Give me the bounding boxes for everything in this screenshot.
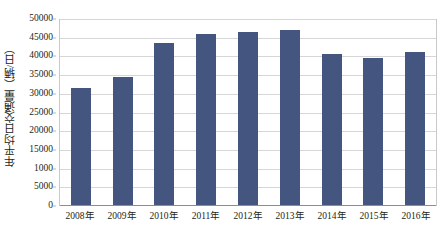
bar: [154, 43, 174, 205]
bar-slot: [394, 19, 436, 205]
y-tick-mark: [53, 56, 56, 57]
y-tick-mark: [53, 112, 56, 113]
bar-slot: [102, 19, 144, 205]
x-tick-label: 2012年: [227, 207, 269, 227]
y-axis-title: 年平均日交通量（辆/日）: [0, 0, 20, 210]
y-tick-label: 30000: [29, 89, 53, 99]
y-tick-label: 45000: [29, 33, 53, 43]
bar-slot: [311, 19, 353, 205]
bar-slot: [352, 19, 394, 205]
y-tick-mark: [53, 206, 56, 207]
bar-slot: [60, 19, 102, 205]
bar-slot: [185, 19, 227, 205]
bar: [405, 52, 425, 205]
y-tick-label: 50000: [29, 14, 53, 24]
x-tick-label: 2010年: [143, 207, 185, 227]
y-tick-mark: [53, 187, 56, 188]
y-axis-tick-labels: 0500010001500020000250003000035000400004…: [18, 0, 56, 232]
x-axis-tick-labels: 2008年2009年2010年2011年2012年2013年2014年2015年…: [59, 207, 437, 227]
bar-slot: [269, 19, 311, 205]
x-tick-label: 2008年: [59, 207, 101, 227]
x-tick-label: 2009年: [101, 207, 143, 227]
y-tick-label: 25000: [29, 108, 53, 118]
x-tick-label: 2013年: [269, 207, 311, 227]
y-tick-mark: [53, 168, 56, 169]
x-tick-label: 2016年: [395, 207, 437, 227]
bar: [196, 34, 216, 205]
y-tick-mark: [53, 131, 56, 132]
x-tick-label: 2015年: [353, 207, 395, 227]
x-tick-label: 2011年: [185, 207, 227, 227]
y-tick-mark: [53, 149, 56, 150]
bars-container: [60, 19, 436, 205]
bar-slot: [144, 19, 186, 205]
y-tick-label: 1000: [34, 164, 53, 174]
y-tick-label: 15000: [29, 145, 53, 155]
bar: [71, 88, 91, 205]
y-tick-label: 20000: [29, 126, 53, 136]
bar: [280, 30, 300, 205]
x-axis-line: [60, 205, 436, 206]
y-tick-mark: [53, 19, 56, 20]
y-tick-label: 35000: [29, 70, 53, 80]
bar: [238, 32, 258, 205]
bar-slot: [227, 19, 269, 205]
y-tick-mark: [53, 75, 56, 76]
y-tick-label: 40000: [29, 52, 53, 62]
plot-area: [59, 19, 437, 206]
y-tick-mark: [53, 37, 56, 38]
bar-chart-figure: 年平均日交通量（辆/日） 050001000150002000025000300…: [0, 0, 448, 232]
bar: [322, 54, 342, 205]
bar: [363, 58, 383, 205]
bar: [113, 77, 133, 205]
x-tick-label: 2014年: [311, 207, 353, 227]
y-tick-mark: [53, 93, 56, 94]
y-axis-title-text: 年平均日交通量（辆/日）: [5, 43, 16, 167]
y-tick-label: 5000: [34, 183, 53, 193]
